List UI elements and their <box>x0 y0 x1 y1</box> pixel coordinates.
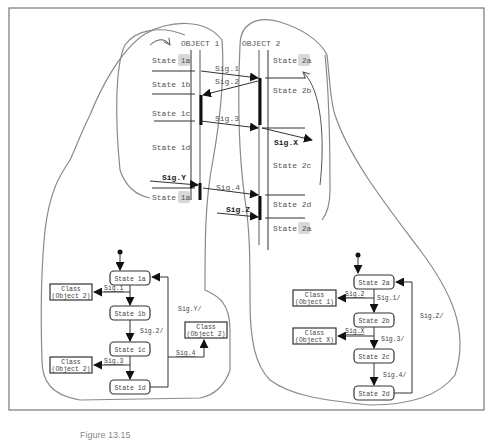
initial-state-2 <box>356 253 361 258</box>
sc2-recv-sigZ-label: Sig.Z/ <box>420 313 444 320</box>
diagram-canvas: OBJECT 1 OBJECT 2 State 1a State 1b Stat… <box>0 0 491 442</box>
seq-state-2d: State 2d <box>273 200 312 209</box>
sc1-state-1d[interactable]: State 1d <box>110 380 150 394</box>
class-object: (Object 2) <box>51 366 90 373</box>
class-name: Class <box>61 286 81 293</box>
seq-state-1d: State 1d <box>152 143 191 152</box>
class-object: (Object 1) <box>295 299 334 306</box>
seq-state-1a: State 1a <box>152 56 191 65</box>
sc1-send-sig1-label: Sig.1 <box>104 285 124 292</box>
sc1-recv-sig2-label: Sig.2/ <box>140 328 164 335</box>
sc2-state-2d-label: State 2d <box>358 391 389 398</box>
sc1-state-1a-label: State 1a <box>114 276 145 283</box>
sc1-state-1a[interactable]: State 1a <box>110 271 150 285</box>
sig1-label: Sig.1 <box>215 64 239 73</box>
initial-state-1 <box>118 250 123 255</box>
sc2-state-2a[interactable]: State 2a <box>354 275 394 289</box>
sc2-state-2c[interactable]: State 2c <box>354 349 394 363</box>
sc2-class-objectX[interactable]: Class (Object X) <box>293 328 336 344</box>
sc2-recv-sig4-label: Sig.4/ <box>383 372 407 379</box>
loop-arrow-object1 <box>150 40 170 45</box>
seq-state-1b: State 1b <box>152 80 191 89</box>
seq-state-2a-return: State 2a <box>273 224 312 233</box>
sc1-send-sig3-label: Sig.3 <box>104 358 124 365</box>
class-object: (Object X) <box>295 337 334 344</box>
class-name: Class <box>305 330 325 337</box>
sc2-send-sigX-label: Sig.X <box>345 328 365 335</box>
sig4-label: Sig.4 <box>216 183 240 192</box>
class-object: (Object 2) <box>51 293 90 300</box>
sc2-class-object1[interactable]: Class (Object 1) <box>293 290 336 306</box>
sc1-state-1b-label: State 1b <box>114 311 145 318</box>
seq-state-1c: State 1c <box>152 109 191 118</box>
object1-label: OBJECT 1 <box>181 39 220 48</box>
sigY-label: Sig.Y <box>162 173 186 182</box>
sc2-recv-sig3-label: Sig.3/ <box>381 336 405 343</box>
sigZ-label: Sig.Z <box>226 205 250 214</box>
sc2-send-sig2-label: Sig.2 <box>345 291 365 298</box>
sc2-state-2c-label: State 2c <box>358 354 389 361</box>
sc2-state-2d[interactable]: State 2d <box>354 386 394 400</box>
sc1-state-1c[interactable]: State 1c <box>110 342 150 356</box>
sig2-label: Sig.2 <box>215 77 239 86</box>
sc1-class-object2-c[interactable]: Class (Object 2) <box>185 322 227 338</box>
class-object: (Object 2) <box>186 331 225 338</box>
sc2-state-2a-label: State 2a <box>358 280 389 287</box>
sc1-state-1c-label: State 1c <box>114 347 145 354</box>
sc1-state-1b[interactable]: State 1b <box>110 306 150 320</box>
object2-sequence-outline <box>322 55 330 220</box>
sc1-recv-sigY-label: Sig.Y/ <box>178 306 202 313</box>
sigX-label: Sig.X <box>274 138 298 147</box>
sc1-class-object2-a[interactable]: Class (Object 2) <box>50 284 92 300</box>
figure-caption: Figure 13.15 <box>80 430 131 440</box>
seq-state-2b: State 2b <box>273 86 312 95</box>
sc1-class-object2-b[interactable]: Class (Object 2) <box>50 357 92 373</box>
class-name: Class <box>196 324 216 331</box>
object2-label: OBJECT 2 <box>242 39 281 48</box>
seq-state-2a: State 2a <box>273 56 312 65</box>
sig3-label: Sig.3 <box>215 114 239 123</box>
sc2-recv-sig1-label: Sig.1/ <box>377 295 401 302</box>
sc2-state-2b[interactable]: State 2b <box>354 313 394 327</box>
sc2-state-2b-label: State 2b <box>358 318 389 325</box>
seq-state-1a-return: State 1a <box>152 193 191 202</box>
class-name: Class <box>61 359 81 366</box>
sc1-send-sig4-label: Sig.4 <box>176 350 196 357</box>
sc1-state-1d-label: State 1d <box>114 385 145 392</box>
seq-state-2c: State 2c <box>273 161 312 170</box>
class-name: Class <box>305 292 325 299</box>
